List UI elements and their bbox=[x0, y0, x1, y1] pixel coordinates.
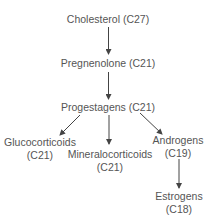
node-name: Glucocorticoids bbox=[4, 136, 76, 149]
node-cholesterol: Cholesterol (C27) bbox=[67, 13, 149, 26]
node-carbons: (C18) bbox=[155, 203, 202, 216]
node-glucocorticoids: Glucocorticoids (C21) bbox=[4, 136, 76, 161]
node-mineralocorticoids: Mineralocorticoids (C21) bbox=[68, 148, 153, 173]
arrow-progestagens-to-androgens bbox=[140, 113, 162, 134]
node-name: Androgens bbox=[153, 134, 204, 147]
node-androgens: Androgens (C19) bbox=[153, 134, 204, 159]
node-label: Progestagens (C21) bbox=[61, 101, 155, 113]
node-estrogens: Estrogens (C18) bbox=[155, 190, 202, 215]
node-pregnenolone: Pregnenolone (C21) bbox=[61, 57, 156, 70]
node-carbons: (C21) bbox=[4, 149, 76, 162]
node-label: Pregnenolone (C21) bbox=[61, 57, 156, 69]
node-name: Estrogens bbox=[155, 190, 202, 203]
node-progestagens: Progestagens (C21) bbox=[61, 101, 155, 114]
node-carbons: (C21) bbox=[68, 161, 153, 174]
node-carbons: (C19) bbox=[153, 147, 204, 160]
node-name: Mineralocorticoids bbox=[68, 148, 153, 161]
node-label: Cholesterol (C27) bbox=[67, 13, 149, 25]
arrow-progestagens-to-glucocorticoids bbox=[60, 115, 80, 135]
